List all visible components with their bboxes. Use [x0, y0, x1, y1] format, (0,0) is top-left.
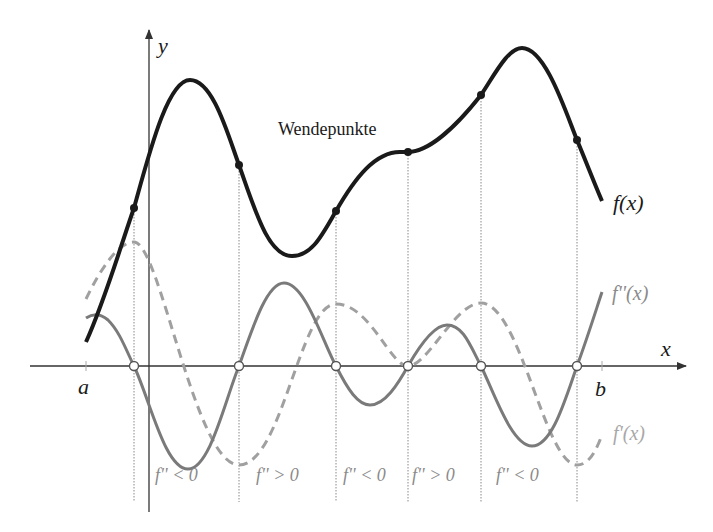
diagram-canvas — [0, 0, 713, 532]
zero-point-1 — [130, 362, 139, 371]
inflection-point-1 — [130, 204, 138, 212]
region-label-4: f'' > 0 — [412, 466, 455, 484]
region-label-1-text: f'' < 0 — [155, 465, 198, 485]
region-label-2: f'' > 0 — [256, 466, 299, 484]
region-label-5-text: f'' < 0 — [496, 465, 539, 485]
region-label-4-text: f'' > 0 — [412, 465, 455, 485]
y-axis-label: y — [158, 35, 168, 57]
region-label-5: f'' < 0 — [496, 466, 539, 484]
f-prime-label: f'(x) — [613, 423, 645, 443]
inflection-point-3 — [332, 207, 340, 215]
inflection-point-6 — [573, 136, 581, 144]
zero-point-3 — [332, 362, 341, 371]
guide-lines — [134, 95, 577, 502]
f-curve-label: f(x) — [613, 192, 644, 214]
region-label-3-text: f'' < 0 — [343, 465, 386, 485]
region-label-1: f'' < 0 — [155, 466, 198, 484]
zero-point-4 — [404, 362, 413, 371]
zero-point-6 — [573, 362, 582, 371]
region-label-2-text: f'' > 0 — [256, 465, 299, 485]
f-double-prime-label: f''(x) — [612, 283, 648, 303]
inflection-diagram: y x a b Wendepunkte f(x) f''(x) f'(x) f'… — [0, 0, 713, 532]
zero-point-2 — [235, 362, 244, 371]
inflection-point-4 — [404, 148, 412, 156]
f-prime-curve — [86, 242, 602, 465]
interval-start-label: a — [78, 376, 89, 398]
inflection-points — [130, 91, 581, 215]
interval-end-label: b — [595, 378, 606, 400]
inflection-point-2 — [235, 161, 243, 169]
inflection-point-5 — [477, 91, 485, 99]
f-double-prime-curve — [86, 283, 602, 469]
zero-point-5 — [477, 362, 486, 371]
region-label-3: f'' < 0 — [343, 466, 386, 484]
x-axis-label: x — [661, 338, 671, 360]
inflection-title: Wendepunkte — [278, 120, 377, 138]
